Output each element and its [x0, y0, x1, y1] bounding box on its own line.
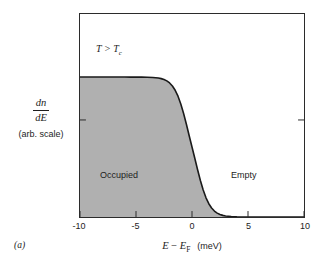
- xtick-label: 0: [175, 221, 209, 231]
- xtick-label: 5: [232, 221, 266, 231]
- temperature-annotation: T > Tc: [96, 44, 122, 57]
- xaxis-minus: −: [169, 240, 180, 251]
- xtick-label: -10: [62, 221, 96, 231]
- xtick-label: 10: [288, 221, 322, 231]
- yaxis-denominator: dE: [33, 112, 49, 124]
- temperature-subscript: c: [119, 49, 122, 57]
- yaxis-fraction: dn dE: [33, 97, 49, 124]
- fraction-bar: [33, 110, 49, 111]
- xaxis-title: E − EF(meV): [79, 240, 305, 254]
- yaxis-numerator: dn: [33, 97, 49, 109]
- xaxis-symbol-ef-subscript: F: [186, 245, 190, 254]
- panel-letter: (a): [14, 240, 25, 250]
- plot-frame: T > Tc Occupied Empty: [79, 13, 305, 218]
- occupied-label: Occupied: [100, 171, 138, 180]
- empty-label: Empty: [231, 171, 257, 180]
- figure-panel-a: T > Tc Occupied Empty -10-50510 E − EF(m…: [0, 0, 329, 268]
- yaxis-scale-note: (arb. scale): [6, 129, 76, 139]
- xaxis-units: (meV): [197, 241, 222, 251]
- xtick-label: -5: [119, 221, 153, 231]
- temperature-relation: >: [101, 43, 113, 54]
- yaxis-label: dn dE (arb. scale): [6, 97, 76, 139]
